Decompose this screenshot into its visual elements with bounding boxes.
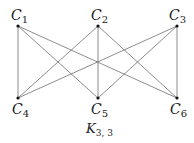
node-c5 (96, 96, 99, 99)
k33-graph-diagram: C1 C2 C3 C4 C5 C6 K3, 3 (0, 0, 194, 143)
label-c4: C4 (12, 101, 29, 119)
node-c2 (96, 24, 99, 27)
node-c3 (175, 24, 178, 27)
node-c1 (16, 24, 19, 27)
label-c6: C6 (170, 101, 187, 119)
label-c3: C3 (169, 7, 186, 25)
node-c4 (16, 96, 19, 99)
label-c1: C1 (11, 7, 28, 25)
graph-title: K3, 3 (85, 121, 113, 138)
edges (18, 26, 177, 98)
label-c2: C2 (91, 7, 108, 25)
label-c5: C5 (91, 101, 108, 119)
node-c6 (175, 96, 178, 99)
